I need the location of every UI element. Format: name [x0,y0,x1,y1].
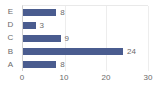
category-axis: E D C B A [0,5,21,71]
value-axis-tick: 30 [144,73,153,83]
bar-value-label: 8 [60,8,64,17]
plot-area: 8 3 9 24 8 [22,5,148,71]
bar-E[interactable] [23,9,56,16]
category-axis-label: B [0,47,21,56]
bar-value-label: 3 [40,21,44,30]
bar-row: 8 [23,9,148,16]
bar-row: 3 [23,22,148,29]
bar-C[interactable] [23,35,61,42]
bar-series: 8 3 9 24 8 [23,6,148,71]
value-axis-tick: 20 [102,73,111,83]
bar-value-label: 9 [65,34,69,43]
value-axis-tick: 10 [60,73,69,83]
bar-row: 8 [23,61,148,68]
category-axis-label: C [0,33,21,42]
bar-chart: E D C B A 8 3 9 24 [0,0,163,98]
bar-row: 24 [23,48,148,55]
category-axis-label: E [0,7,21,16]
bar-value-label: 8 [60,60,64,69]
category-axis-label: D [0,20,21,29]
gridline-x-30 [148,6,149,71]
bar-value-label: 24 [127,47,136,56]
bar-row: 9 [23,35,148,42]
value-axis: 0 10 20 30 [22,73,148,87]
bar-A[interactable] [23,61,56,68]
bar-B[interactable] [23,48,123,55]
bar-D[interactable] [23,22,36,29]
value-axis-tick: 0 [20,73,24,83]
category-axis-label: A [0,60,21,69]
